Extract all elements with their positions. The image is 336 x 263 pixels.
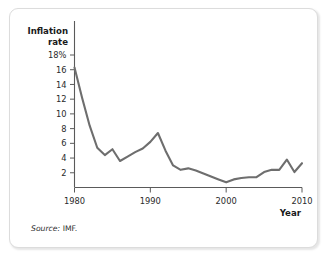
y-axis-tick-label: 6 xyxy=(61,138,66,148)
y-axis-tick-label: 16 xyxy=(56,65,67,75)
source-note: Source: IMF. xyxy=(31,224,77,233)
y-axis-tick-label: 12 xyxy=(56,94,67,104)
y-axis-tick-label: 2 xyxy=(61,168,66,178)
x-axis-tick-label: 1980 xyxy=(64,196,85,206)
source-note-value: IMF. xyxy=(63,224,78,233)
y-axis-title-line1: Inflation xyxy=(27,26,68,36)
x-axis-ticks: 1980199020002010 xyxy=(64,188,313,206)
x-axis-title: Year xyxy=(279,208,302,218)
y-axis-tick-label: 14 xyxy=(56,80,67,90)
inflation-rate-series-line xyxy=(75,68,303,183)
y-axis-ticks: 24681012141618% xyxy=(48,50,74,178)
figure-card: Inflation rate 24681012141618% 198019902… xyxy=(9,8,318,248)
x-axis-tick-label: 2010 xyxy=(291,196,312,206)
inflation-rate-line-chart: Inflation rate 24681012141618% 198019902… xyxy=(10,9,319,249)
x-axis-tick-label: 2000 xyxy=(216,196,237,206)
source-note-label: Source: xyxy=(31,224,60,233)
x-axis-tick-label: 1990 xyxy=(140,196,161,206)
y-axis-tick-label: 10 xyxy=(56,109,67,119)
y-axis-title-line2: rate xyxy=(48,37,68,47)
y-axis-tick-label: 8 xyxy=(61,124,66,134)
y-axis-tick-label: 18% xyxy=(48,50,67,60)
chart-plot-area: Inflation rate 24681012141618% 198019902… xyxy=(10,9,319,249)
y-axis-tick-label: 4 xyxy=(61,153,66,163)
